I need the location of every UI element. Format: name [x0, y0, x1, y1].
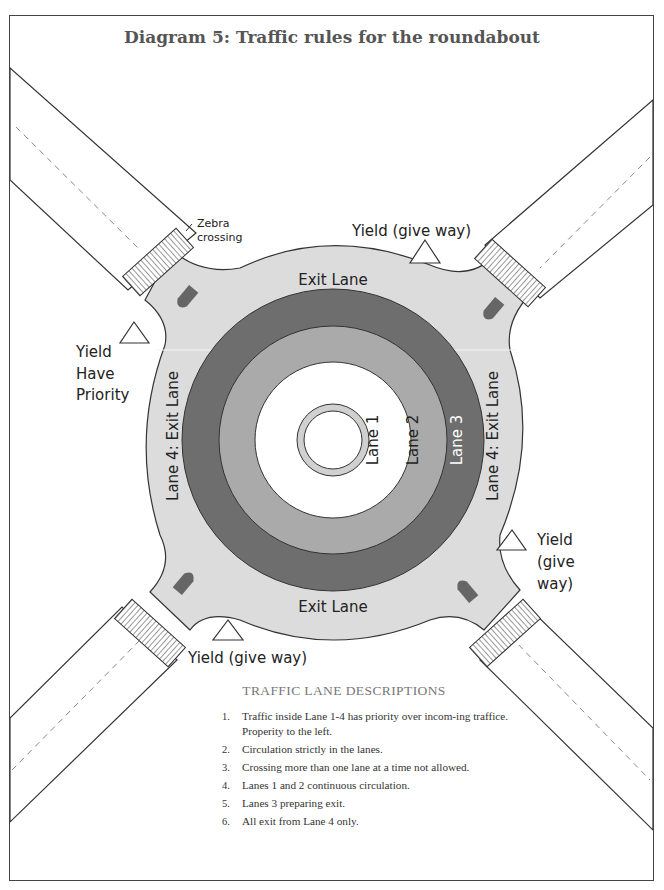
item-text: Traffic inside Lane 1-4 has priority ove… — [242, 710, 508, 737]
item-number: 3. — [222, 760, 230, 775]
description-item: 5.Lanes 3 preparing exit. — [214, 796, 514, 811]
item-text: Circulation strictly in the lanes. — [242, 743, 383, 755]
item-text: Crossing more than one lane at a time no… — [242, 761, 469, 773]
yield-bottom-label: Yield (give way) — [187, 649, 307, 667]
item-text: Lanes 1 and 2 continuous circulation. — [242, 779, 410, 791]
yield-triangle-left — [120, 322, 149, 343]
center-island-inner — [304, 411, 362, 469]
lane2-label: Lane 2 — [404, 415, 422, 466]
yield-left-label-3: Priority — [76, 386, 130, 404]
item-number: 6. — [222, 814, 230, 829]
description-item: 2.Circulation strictly in the lanes. — [214, 742, 514, 757]
zebra-label-1: Zebra — [197, 217, 230, 230]
yield-right-label-2: (give — [537, 553, 575, 571]
yield-top-label: Yield (give way) — [351, 222, 471, 240]
description-item: 6.All exit from Lane 4 only. — [214, 814, 514, 829]
item-number: 1. — [222, 709, 230, 724]
item-text: All exit from Lane 4 only. — [242, 815, 359, 827]
yield-right-label-1: Yield — [536, 531, 573, 549]
lane4-left-label: Lane 4: Exit Lane — [164, 371, 182, 501]
exit-lane-top-label: Exit Lane — [298, 271, 367, 289]
item-number: 4. — [222, 778, 230, 793]
yield-right-label-3: way) — [537, 575, 573, 593]
exit-lane-bottom-label: Exit Lane — [298, 598, 367, 616]
descriptions-list: 1.Traffic inside Lane 1-4 has priority o… — [214, 709, 514, 829]
yield-triangle-top — [410, 240, 440, 263]
lane4-right-label: Lane 4: Exit Lane — [484, 371, 502, 501]
description-item: 1.Traffic inside Lane 1-4 has priority o… — [214, 709, 514, 739]
description-item: 3.Crossing more than one lane at a time … — [214, 760, 514, 775]
lane3-label: Lane 3 — [448, 415, 466, 466]
item-text: Lanes 3 preparing exit. — [242, 797, 345, 809]
lane1-label: Lane 1 — [364, 415, 382, 466]
zebra-label-2: crossing — [197, 231, 243, 244]
item-number: 2. — [222, 742, 230, 757]
descriptions-heading: TRAFFIC LANE DESCRIPTIONS — [174, 683, 514, 699]
yield-triangle-bottom — [213, 620, 243, 640]
description-item: 4.Lanes 1 and 2 continuous circulation. — [214, 778, 514, 793]
item-number: 5. — [222, 796, 230, 811]
yield-left-label-2: Have — [76, 365, 115, 383]
yield-left-label-1: Yield — [75, 343, 112, 361]
lane-descriptions: TRAFFIC LANE DESCRIPTIONS 1.Traffic insi… — [214, 683, 514, 832]
